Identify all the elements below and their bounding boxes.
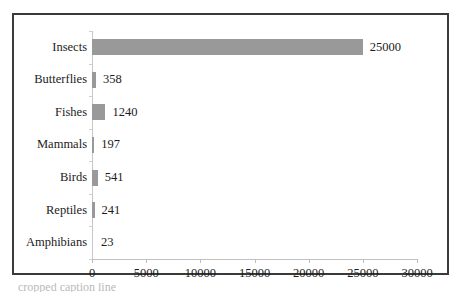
y-axis-tick <box>89 31 92 32</box>
x-axis-tick <box>146 259 147 263</box>
bar-value-label: 197 <box>101 136 120 153</box>
bar-row: Fishes1240 <box>92 96 417 129</box>
x-axis-tick-label: 25000 <box>347 265 378 281</box>
x-axis-tick <box>417 259 418 263</box>
bar-row: Amphibians23 <box>92 226 417 259</box>
bar-value-label: 358 <box>103 71 122 88</box>
x-axis-tick <box>200 259 201 263</box>
bar-value-label: 23 <box>101 234 114 251</box>
bar-value-label: 1240 <box>112 104 137 121</box>
bar-row: Birds541 <box>92 161 417 194</box>
bar <box>92 137 94 153</box>
category-label: Amphibians <box>26 234 87 251</box>
y-axis-tick <box>89 226 92 227</box>
x-axis-tick <box>92 259 93 263</box>
y-axis-tick <box>89 194 92 195</box>
x-axis-tick-label: 10000 <box>185 265 216 281</box>
x-axis-tick <box>363 259 364 263</box>
bar <box>92 104 105 120</box>
x-axis-tick-label: 5000 <box>134 265 159 281</box>
bar-row: Reptiles241 <box>92 194 417 227</box>
caption-strip: cropped caption line <box>18 283 438 292</box>
x-axis-tick-label: 30000 <box>401 265 432 281</box>
x-axis-tick-label: 0 <box>89 265 95 281</box>
y-axis-tick <box>89 64 92 65</box>
bar <box>92 202 95 218</box>
x-axis-tick <box>309 259 310 263</box>
category-label: Fishes <box>55 104 87 121</box>
category-label: Insects <box>52 39 87 56</box>
x-axis-tick-label: 15000 <box>239 265 270 281</box>
category-label: Reptiles <box>46 202 87 219</box>
bar-row: Insects25000 <box>92 31 417 64</box>
x-axis-tick-label: 20000 <box>293 265 324 281</box>
plot-area: Insects25000Butterflies358Fishes1240Mamm… <box>92 31 417 259</box>
bar-value-label: 25000 <box>370 39 401 56</box>
bar-row: Mammals197 <box>92 129 417 162</box>
bar-value-label: 241 <box>102 202 121 219</box>
bar-value-label: 541 <box>105 169 124 186</box>
category-label: Birds <box>60 169 87 186</box>
chart-frame: Insects25000Butterflies358Fishes1240Mamm… <box>12 13 449 275</box>
category-label: Butterflies <box>34 71 87 88</box>
bar <box>92 170 98 186</box>
bar <box>92 72 96 88</box>
x-axis-tick <box>255 259 256 263</box>
y-axis-tick <box>89 129 92 130</box>
caption-text: cropped caption line <box>18 283 438 292</box>
bar-row: Butterflies358 <box>92 64 417 97</box>
y-axis-tick <box>89 96 92 97</box>
bar <box>92 39 363 55</box>
y-axis-tick <box>89 161 92 162</box>
category-label: Mammals <box>37 136 87 153</box>
